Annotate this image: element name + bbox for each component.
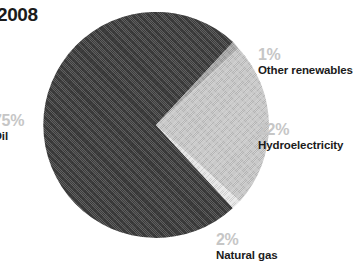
label-oil: 75% Oil [0, 113, 24, 143]
label-oil-name: Oil [0, 130, 24, 143]
label-hydroelectricity-percent: 22% [258, 122, 343, 138]
label-other-renewables-name: Other renewables [258, 64, 353, 77]
label-hydroelectricity-name: Hydroelectricity [258, 139, 343, 152]
label-natural-gas: 2% Natural gas [216, 232, 278, 262]
label-hydroelectricity: 22% Hydroelectricity [258, 122, 343, 152]
pie-chart-figure: 2008 75% Oil 1% Other renewables 22% Hyd… [0, 0, 356, 268]
label-other-renewables-percent: 1% [258, 47, 353, 63]
pie-slices-svg [43, 12, 269, 238]
label-oil-percent: 75% [0, 113, 24, 129]
pie-chart [43, 12, 269, 238]
label-other-renewables: 1% Other renewables [258, 47, 353, 77]
chart-title: 2008 [0, 4, 38, 26]
label-natural-gas-percent: 2% [216, 232, 278, 248]
label-natural-gas-name: Natural gas [216, 249, 278, 262]
